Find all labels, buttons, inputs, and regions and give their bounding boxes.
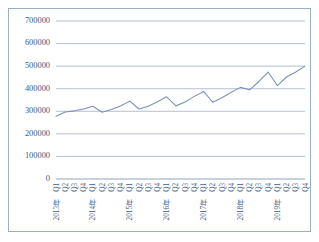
x-axis-quarter-label: Q3 — [255, 183, 263, 192]
x-axis-quarter-label: Q2 — [172, 183, 180, 192]
x-axis-quarter-label: Q2 — [209, 183, 217, 192]
y-axis-tick-label: 200000 — [25, 129, 50, 138]
x-axis-quarter-label: Q3 — [219, 183, 227, 192]
x-axis-quarter-label: Q1 — [200, 183, 208, 192]
x-axis-quarter-label: Q2 — [62, 183, 70, 192]
x-axis-quarter-label: Q1 — [237, 183, 245, 192]
x-axis-quarter-label: Q4 — [117, 183, 125, 192]
chart-frame: 0100000200000300000400000500000600000700… — [8, 8, 311, 232]
y-axis-tick-label: 600000 — [25, 38, 50, 47]
x-axis-tick-labels: Q1Q2Q3Q4Q1Q2Q3Q4Q1Q2Q3Q4Q1Q2Q3Q4Q1Q2Q3Q4… — [52, 183, 310, 221]
x-axis-quarter-label: Q2 — [136, 183, 144, 192]
x-axis-quarter-label: Q1 — [126, 183, 134, 192]
series-line — [56, 66, 305, 116]
x-axis-quarter-label: Q4 — [265, 183, 273, 192]
figure-caption — [0, 232, 319, 242]
y-axis-tick-label: 400000 — [25, 84, 50, 93]
x-axis-quarter-label: Q4 — [80, 183, 88, 192]
x-axis-quarter-label: Q2 — [246, 183, 254, 192]
y-axis-tick-label: 100000 — [25, 151, 50, 160]
x-axis-quarter-label: Q4 — [228, 183, 236, 192]
x-axis-quarter-label: Q1 — [274, 183, 282, 192]
plot-area: 0100000200000300000400000500000600000700… — [9, 9, 310, 231]
y-axis-tick-labels: 0100000200000300000400000500000600000700… — [25, 16, 50, 183]
x-axis-quarter-label: Q1 — [53, 183, 61, 192]
x-axis-quarter-label: Q1 — [163, 183, 171, 192]
x-axis-quarter-label: Q3 — [71, 183, 79, 192]
x-axis-quarter-label: Q2 — [283, 183, 291, 192]
line-chart-svg: 0100000200000300000400000500000600000700… — [9, 9, 312, 233]
x-axis-year-label: 2014年 — [88, 199, 97, 220]
x-axis-quarter-label: Q4 — [154, 183, 162, 192]
x-axis-quarter-label: Q3 — [182, 183, 190, 192]
x-axis-quarter-label: Q1 — [89, 183, 97, 192]
x-axis-quarter-label: Q3 — [292, 183, 300, 192]
gridlines-group — [56, 21, 305, 179]
y-axis-tick-label: 0 — [46, 174, 50, 183]
x-axis-year-label: 2017年 — [199, 199, 208, 220]
x-axis-quarter-label: Q2 — [99, 183, 107, 192]
x-axis-quarter-label: Q4 — [302, 183, 310, 192]
y-axis-tick-label: 700000 — [25, 16, 50, 25]
y-axis-tick-label: 300000 — [25, 106, 50, 115]
y-axis-tick-label: 500000 — [25, 61, 50, 70]
x-axis-year-label: 2013年 — [52, 199, 61, 220]
chart-figure: 0100000200000300000400000500000600000700… — [0, 0, 319, 242]
x-axis-year-label: 2019年 — [273, 199, 282, 220]
x-axis-year-label: 2018年 — [236, 199, 245, 220]
x-axis-quarter-label: Q4 — [191, 183, 199, 192]
x-axis-year-label: 2015年 — [125, 199, 134, 220]
x-axis-quarter-label: Q3 — [145, 183, 153, 192]
x-axis-year-label: 2016年 — [162, 199, 171, 220]
x-axis-quarter-label: Q3 — [108, 183, 116, 192]
